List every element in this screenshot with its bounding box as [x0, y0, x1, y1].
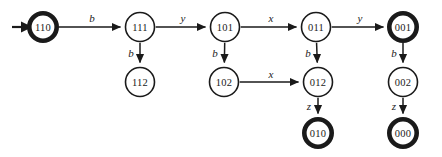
- state-node-011[interactable]: 011: [302, 13, 331, 42]
- state-node-label-101: 101: [217, 22, 233, 33]
- edge-label-002-000: z: [391, 100, 397, 112]
- state-node-label-002: 002: [395, 77, 411, 88]
- edge-label-011-012: b: [305, 47, 311, 59]
- edge-label-012-010: z: [306, 100, 312, 112]
- state-node-111[interactable]: 111: [126, 13, 155, 42]
- state-node-label-011: 011: [308, 22, 324, 33]
- state-node-label-111: 111: [132, 22, 148, 33]
- edge-label-111-112: b: [128, 47, 134, 59]
- edge-label-001-002: b: [391, 47, 397, 59]
- edge-label-101-011: x: [268, 12, 274, 24]
- state-diagram: 110111101011001112102012002010000 byxybb…: [0, 0, 442, 157]
- edge-label-102-012: x: [268, 68, 274, 80]
- state-node-002[interactable]: 002: [389, 68, 418, 97]
- nodes-layer: 110111101011001112102012002010000: [29, 13, 417, 147]
- state-node-label-010: 010: [310, 128, 326, 139]
- state-diagram-canvas: 110111101011001112102012002010000 byxybb…: [0, 0, 442, 157]
- state-node-110[interactable]: 110: [29, 13, 56, 40]
- state-node-010[interactable]: 010: [304, 119, 331, 146]
- state-node-112[interactable]: 112: [126, 68, 155, 97]
- state-node-101[interactable]: 101: [211, 13, 240, 42]
- edge-label-111-101: y: [180, 12, 186, 24]
- state-node-label-112: 112: [132, 77, 148, 88]
- state-node-label-110: 110: [35, 22, 51, 33]
- state-node-label-001: 001: [395, 22, 411, 33]
- state-node-000[interactable]: 000: [389, 119, 416, 146]
- edge-label-110-111: b: [89, 12, 95, 24]
- edge-011-to-012: [317, 43, 318, 63]
- state-node-012[interactable]: 012: [304, 68, 333, 97]
- state-node-label-012: 012: [310, 77, 326, 88]
- edge-label-101-102: b: [212, 47, 218, 59]
- state-node-001[interactable]: 001: [389, 13, 416, 40]
- state-node-label-102: 102: [216, 77, 232, 88]
- state-node-label-000: 000: [395, 128, 411, 139]
- state-node-102[interactable]: 102: [210, 68, 239, 97]
- edge-label-011-001: y: [357, 12, 363, 24]
